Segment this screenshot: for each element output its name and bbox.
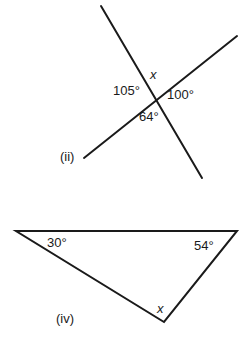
angle-54-label: 54° xyxy=(194,238,214,253)
angle-100-label: 100° xyxy=(167,87,194,102)
figure-ii: x 105° 100° 64° (ii) xyxy=(60,6,237,178)
angle-x-label: x xyxy=(156,301,164,316)
angle-105-label: 105° xyxy=(113,83,140,98)
angle-64-label: 64° xyxy=(139,109,159,124)
line-b xyxy=(84,36,237,158)
figure-iv: 30° 54° x (iv) xyxy=(16,231,237,326)
geometry-diagram: x 105° 100° 64° (ii) 30° 54° x (iv) xyxy=(0,0,248,348)
angle-x-label: x xyxy=(149,67,157,82)
angle-30-label: 30° xyxy=(47,235,67,250)
figure-label-ii: (ii) xyxy=(60,149,74,164)
figure-label-iv: (iv) xyxy=(56,311,74,326)
